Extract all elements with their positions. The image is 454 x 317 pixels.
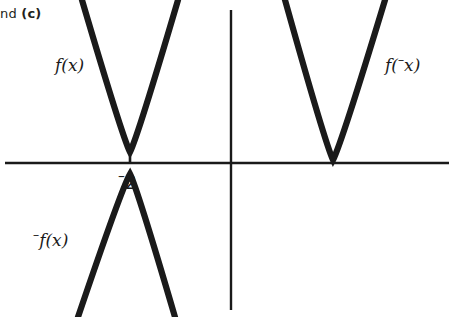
curve-neg-f-of-x xyxy=(78,174,175,317)
label-f-of-x: f(x) xyxy=(53,55,84,75)
label-f-of-neg-x: f(–x) xyxy=(383,53,420,75)
label-neg-f-of-x: –f(x) xyxy=(33,228,68,250)
figure-canvas: nd (c) f(x) f(–x) –f(x) –2 xyxy=(0,0,454,317)
curve-f-of-x xyxy=(82,0,178,152)
curve-f-of-neg-x xyxy=(285,0,385,160)
graph-plot: f(x) f(–x) –f(x) –2 xyxy=(0,0,454,317)
